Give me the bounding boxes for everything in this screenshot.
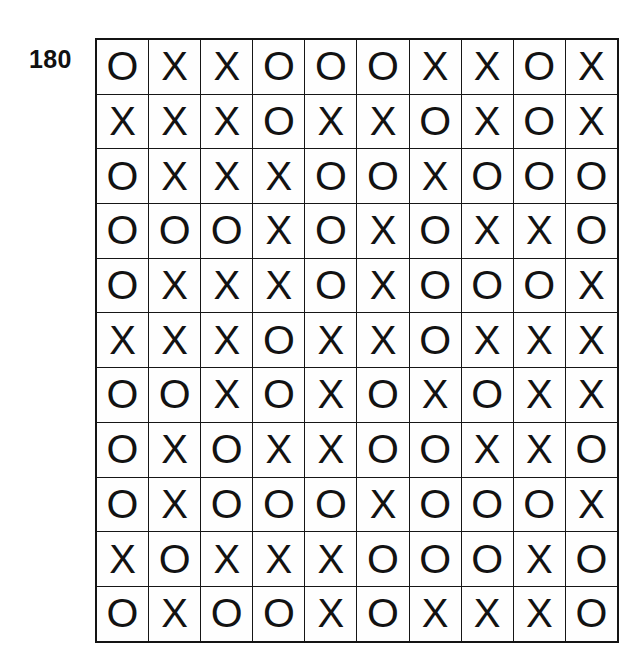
grid-cell[interactable]: O	[149, 532, 201, 587]
grid-cell[interactable]: O	[96, 422, 149, 477]
grid-cell[interactable]: X	[513, 204, 565, 259]
grid-cell[interactable]: X	[409, 39, 461, 94]
grid-cell[interactable]: X	[305, 422, 357, 477]
grid-cell[interactable]: X	[357, 204, 409, 259]
grid-cell[interactable]: O	[513, 258, 565, 313]
grid-cell[interactable]: X	[253, 258, 305, 313]
grid-cell[interactable]: X	[96, 313, 149, 368]
grid-cell[interactable]: X	[357, 258, 409, 313]
grid-cell[interactable]: X	[149, 477, 201, 532]
grid-cell[interactable]: X	[305, 368, 357, 423]
grid-cell[interactable]: X	[409, 586, 461, 641]
grid-cell[interactable]: X	[513, 586, 565, 641]
grid-cell[interactable]: O	[461, 532, 513, 587]
grid-cell[interactable]: X	[305, 586, 357, 641]
grid-cell[interactable]: O	[305, 477, 357, 532]
grid-cell[interactable]: X	[565, 258, 618, 313]
grid-cell[interactable]: O	[461, 477, 513, 532]
grid-cell[interactable]: O	[253, 39, 305, 94]
grid-cell[interactable]: O	[409, 94, 461, 149]
grid-cell[interactable]: O	[149, 368, 201, 423]
grid-cell[interactable]: X	[201, 258, 253, 313]
grid-cell[interactable]: O	[357, 39, 409, 94]
grid-cell[interactable]: O	[305, 258, 357, 313]
grid-cell[interactable]: X	[149, 39, 201, 94]
grid-cell[interactable]: X	[513, 313, 565, 368]
grid-cell[interactable]: X	[409, 149, 461, 204]
grid-cell[interactable]: O	[357, 422, 409, 477]
grid-cell[interactable]: X	[565, 313, 618, 368]
grid-cell[interactable]: O	[96, 39, 149, 94]
grid-cell[interactable]: X	[409, 368, 461, 423]
grid-cell[interactable]: X	[96, 94, 149, 149]
grid-cell[interactable]: X	[149, 149, 201, 204]
grid-cell[interactable]: X	[461, 39, 513, 94]
grid-cell[interactable]: O	[513, 94, 565, 149]
grid-cell[interactable]: X	[513, 368, 565, 423]
grid-cell[interactable]: O	[201, 586, 253, 641]
grid-cell[interactable]: X	[253, 149, 305, 204]
grid-cell[interactable]: O	[357, 368, 409, 423]
grid-cell[interactable]: O	[253, 94, 305, 149]
grid-cell[interactable]: X	[513, 422, 565, 477]
grid-cell[interactable]: X	[149, 258, 201, 313]
grid-cell[interactable]: X	[461, 94, 513, 149]
grid-cell[interactable]: O	[357, 532, 409, 587]
grid-cell[interactable]: X	[149, 94, 201, 149]
grid-cell[interactable]: X	[461, 586, 513, 641]
grid-cell[interactable]: O	[513, 477, 565, 532]
grid-cell[interactable]: X	[513, 532, 565, 587]
grid-cell[interactable]: O	[201, 204, 253, 259]
grid-cell[interactable]: X	[253, 204, 305, 259]
grid-cell[interactable]: O	[357, 586, 409, 641]
grid-cell[interactable]: O	[357, 149, 409, 204]
grid-cell[interactable]: X	[201, 39, 253, 94]
grid-cell[interactable]: O	[96, 368, 149, 423]
grid-cell[interactable]: O	[96, 258, 149, 313]
grid-cell[interactable]: O	[96, 586, 149, 641]
grid-cell[interactable]: O	[409, 532, 461, 587]
grid-cell[interactable]: O	[461, 258, 513, 313]
grid-cell[interactable]: X	[565, 39, 618, 94]
grid-cell[interactable]: X	[565, 368, 618, 423]
grid-cell[interactable]: X	[149, 422, 201, 477]
grid-cell[interactable]: X	[461, 204, 513, 259]
grid-cell[interactable]: O	[305, 149, 357, 204]
grid-cell[interactable]: X	[201, 313, 253, 368]
grid-cell[interactable]: X	[305, 94, 357, 149]
grid-cell[interactable]: X	[253, 422, 305, 477]
grid-cell[interactable]: O	[409, 258, 461, 313]
grid-cell[interactable]: X	[357, 94, 409, 149]
grid-cell[interactable]: O	[253, 586, 305, 641]
grid-cell[interactable]: X	[565, 94, 618, 149]
grid-cell[interactable]: O	[201, 422, 253, 477]
grid-cell[interactable]: X	[461, 422, 513, 477]
grid-cell[interactable]: O	[96, 149, 149, 204]
grid-cell[interactable]: X	[96, 532, 149, 587]
grid-cell[interactable]: X	[201, 368, 253, 423]
grid-cell[interactable]: O	[305, 39, 357, 94]
grid-cell[interactable]: O	[409, 204, 461, 259]
grid-cell[interactable]: O	[253, 313, 305, 368]
grid-cell[interactable]: X	[149, 313, 201, 368]
grid-cell[interactable]: X	[461, 313, 513, 368]
grid-cell[interactable]: O	[253, 477, 305, 532]
grid-cell[interactable]: X	[305, 313, 357, 368]
grid-cell[interactable]: O	[409, 422, 461, 477]
grid-cell[interactable]: X	[201, 532, 253, 587]
grid-cell[interactable]: O	[96, 204, 149, 259]
grid-cell[interactable]: X	[305, 532, 357, 587]
grid-cell[interactable]: O	[253, 368, 305, 423]
grid-cell[interactable]: X	[565, 477, 618, 532]
grid-cell[interactable]: O	[409, 477, 461, 532]
grid-cell[interactable]: O	[513, 149, 565, 204]
grid-cell[interactable]: O	[565, 422, 618, 477]
grid-cell[interactable]: O	[96, 477, 149, 532]
grid-cell[interactable]: O	[149, 204, 201, 259]
grid-cell[interactable]: O	[461, 368, 513, 423]
grid-cell[interactable]: X	[201, 94, 253, 149]
grid-cell[interactable]: O	[565, 586, 618, 641]
grid-cell[interactable]: O	[201, 477, 253, 532]
grid-cell[interactable]: O	[305, 204, 357, 259]
grid-cell[interactable]: X	[201, 149, 253, 204]
